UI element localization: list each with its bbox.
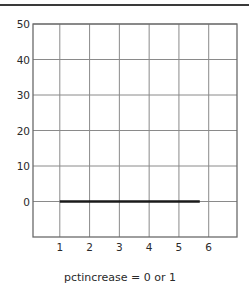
y-tick-label: 0 bbox=[23, 196, 30, 208]
x-tick-label: 5 bbox=[176, 241, 183, 253]
x-tick-label: 3 bbox=[116, 241, 123, 253]
chart-caption: pctincrease = 0 or 1 bbox=[0, 271, 238, 284]
x-tick-label: 2 bbox=[86, 241, 93, 253]
y-tick-label: 30 bbox=[17, 89, 30, 101]
chart-plot: 12345601020304050 bbox=[0, 0, 249, 297]
y-tick-label: 20 bbox=[17, 125, 30, 137]
y-tick-label: 10 bbox=[17, 160, 30, 172]
y-tick-label: 50 bbox=[17, 18, 30, 30]
x-tick-label: 4 bbox=[146, 241, 153, 253]
x-tick-label: 1 bbox=[56, 241, 63, 253]
y-tick-label: 40 bbox=[17, 54, 30, 66]
x-tick-label: 6 bbox=[205, 241, 212, 253]
